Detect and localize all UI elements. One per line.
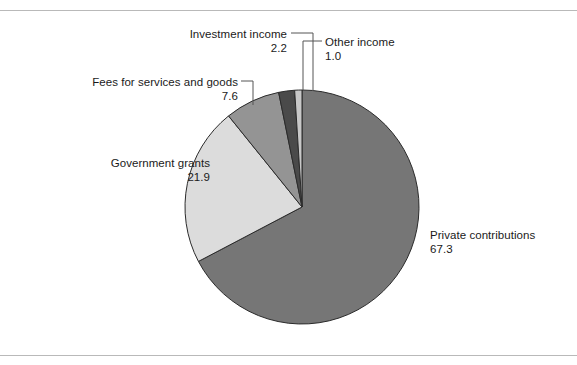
- slice-label-other-income: Other income 1.0: [325, 35, 395, 63]
- pie-slice-group: [185, 90, 419, 324]
- pie-chart-figure: Investment income 2.2 Other income 1.0 F…: [0, 0, 577, 365]
- slice-label-private-contributions: Private contributions 67.3: [430, 228, 535, 256]
- slice-label-other-income-name: Other income: [325, 36, 395, 48]
- slice-label-government-grants-name: Government grants: [111, 157, 210, 169]
- slice-label-private-contributions-name: Private contributions: [430, 229, 535, 241]
- slice-label-fees-value: 7.6: [58, 89, 238, 103]
- slice-label-government-grants: Government grants 21.9: [80, 156, 210, 184]
- slice-label-investment-income: Investment income 2.2: [171, 27, 287, 55]
- slice-label-investment-income-name: Investment income: [190, 28, 287, 40]
- slice-label-private-contributions-value: 67.3: [430, 242, 535, 256]
- slice-label-government-grants-value: 21.9: [80, 170, 210, 184]
- slice-label-fees-name: Fees for services and goods: [92, 76, 238, 88]
- slice-label-other-income-value: 1.0: [325, 49, 395, 63]
- slice-label-investment-income-value: 2.2: [171, 41, 287, 55]
- slice-label-fees-for-services-and-goods: Fees for services and goods 7.6: [58, 75, 238, 103]
- leader-line-investment-income: [291, 33, 313, 91]
